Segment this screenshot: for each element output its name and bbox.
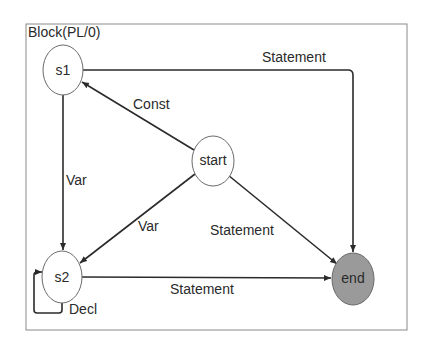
- node-start-label: start: [199, 152, 226, 168]
- edge-label-decl: Decl: [69, 301, 97, 317]
- edge-label-var-start-s2: Var: [138, 218, 159, 234]
- edge-start-s1: [82, 82, 194, 150]
- diagram-title: Block(PL/0): [28, 24, 100, 40]
- edge-start-end: [228, 175, 337, 264]
- edge-label-statement-start-end: Statement: [210, 222, 274, 238]
- edge-label-const: Const: [133, 96, 170, 112]
- edge-label-statement-s2-end: Statement: [170, 281, 234, 297]
- edge-label-var-s1-s2: Var: [66, 172, 87, 188]
- edge-s2-end: [82, 277, 331, 278]
- node-end-label: end: [341, 270, 364, 286]
- edge-label-statement-s1-end: Statement: [262, 49, 326, 65]
- node-s1-label: s1: [56, 62, 71, 78]
- node-s2-label: s2: [55, 269, 70, 285]
